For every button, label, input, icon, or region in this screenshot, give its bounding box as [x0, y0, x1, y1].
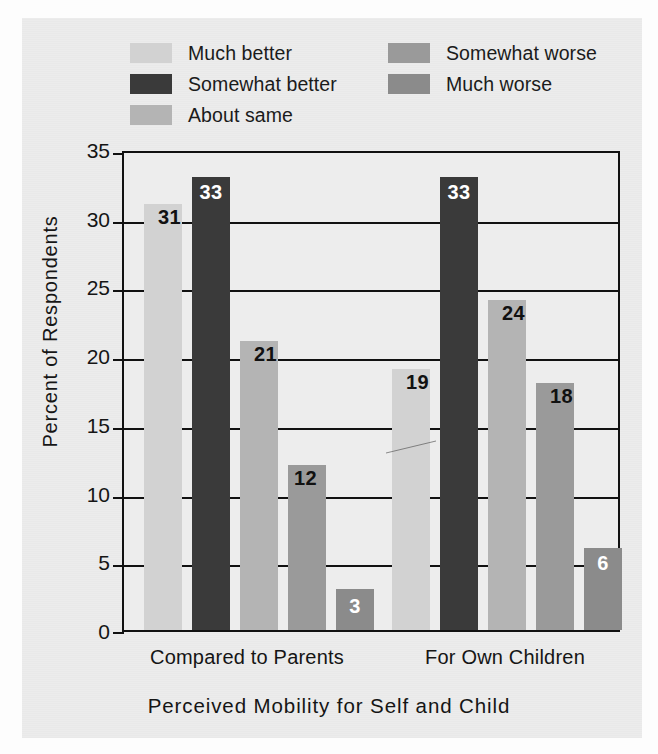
bar-value-g2-somewhat-better: 33 [440, 181, 478, 204]
y-tick-10: 10 [66, 483, 110, 507]
legend-item-about-same: About same [130, 100, 337, 130]
legend-swatch-somewhat-better [130, 74, 172, 94]
legend-column-right: Somewhat worse Much worse [388, 38, 597, 100]
legend-label-much-better: Much better [188, 42, 292, 65]
bar-g1-somewhat-better: 33 [192, 177, 230, 631]
x-group-label-compared-to-parents: Compared to Parents [122, 646, 372, 669]
legend-label-much-worse: Much worse [446, 73, 552, 96]
legend-item-somewhat-better: Somewhat better [130, 69, 337, 99]
y-tick-15: 15 [66, 414, 110, 438]
legend-label-somewhat-better: Somewhat better [188, 73, 337, 96]
bar-value-g2-somewhat-worse: 18 [550, 385, 634, 408]
y-tick-5: 5 [66, 551, 110, 575]
bar-value-g1-somewhat-better: 33 [192, 181, 230, 204]
tick-mark-10 [113, 497, 124, 499]
legend-item-much-better: Much better [130, 38, 337, 68]
y-tick-20: 20 [66, 345, 110, 369]
chart-figure: Much better Somewhat better About same S… [0, 0, 658, 754]
y-axis-tick-labels: 0 5 10 15 20 25 30 35 [58, 151, 110, 632]
bar-g1-much-worse: 3 [336, 589, 374, 630]
legend-swatch-about-same [130, 105, 172, 125]
bar-value-g1-much-worse: 3 [336, 595, 374, 618]
chart-legend: Much better Somewhat better About same S… [130, 38, 600, 134]
legend-swatch-much-worse [388, 74, 430, 94]
x-group-label-for-own-children: For Own Children [390, 646, 620, 669]
bar-value-g2-much-worse: 6 [584, 552, 622, 575]
tick-mark-35 [113, 153, 124, 155]
bar-g2-about-same: 24 [488, 300, 526, 630]
bar-g2-somewhat-better: 33 [440, 177, 478, 631]
bar-value-g1-about-same: 21 [254, 343, 338, 366]
x-axis-title: Perceived Mobility for Self and Child [0, 694, 658, 718]
bar-g1-about-same: 21 [240, 341, 278, 630]
bar-value-g2-about-same: 24 [502, 302, 586, 325]
y-tick-25: 25 [66, 276, 110, 300]
legend-label-about-same: About same [188, 104, 293, 127]
tick-mark-25 [113, 290, 124, 292]
y-tick-35: 35 [66, 139, 110, 163]
legend-item-somewhat-worse: Somewhat worse [388, 38, 597, 68]
bar-g2-much-better: 19 [392, 369, 430, 630]
tick-mark-30 [113, 222, 124, 224]
legend-item-much-worse: Much worse [388, 69, 597, 99]
tick-mark-15 [113, 428, 124, 430]
legend-label-somewhat-worse: Somewhat worse [446, 42, 597, 65]
y-axis-title: Percent of Respondents [39, 132, 62, 532]
y-tick-0: 0 [66, 620, 110, 644]
legend-column-left: Much better Somewhat better About same [130, 38, 337, 131]
bar-g2-somewhat-worse: 18 [536, 383, 574, 630]
bar-g1-much-better: 31 [144, 204, 182, 630]
bar-value-g1-somewhat-worse: 12 [294, 467, 382, 490]
legend-swatch-much-better [130, 43, 172, 63]
legend-swatch-somewhat-worse [388, 43, 430, 63]
tick-mark-5 [113, 565, 124, 567]
plot-area: 31 33 21 12 3 19 33 24 18 6 [122, 151, 620, 632]
bar-g1-somewhat-worse: 12 [288, 465, 326, 630]
bar-g2-much-worse: 6 [584, 548, 622, 631]
tick-mark-20 [113, 359, 124, 361]
tick-mark-0 [113, 632, 124, 634]
y-tick-30: 30 [66, 208, 110, 232]
